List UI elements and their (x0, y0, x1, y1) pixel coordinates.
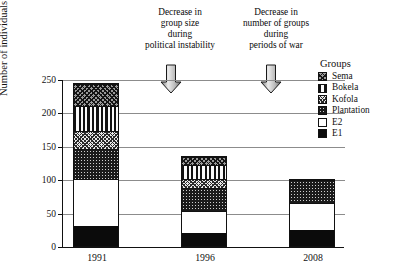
annotation-line: number of groups (213, 18, 339, 29)
y-tick-label: 150 (42, 142, 56, 152)
legend-item-sema[interactable]: Sema (318, 72, 404, 81)
gridline (63, 80, 345, 81)
legend-swatch-kofola (318, 95, 327, 104)
legend-label: Bokela (332, 83, 358, 92)
bar-segment-plantation (290, 180, 334, 203)
y-tick-label: 50 (47, 209, 57, 219)
bar-segment-sema (182, 157, 226, 166)
legend-swatch-sema (318, 72, 327, 81)
chart-figure: Decrease in group size during political … (0, 0, 405, 279)
annotation-line: during (213, 29, 339, 40)
y-tick (58, 247, 63, 248)
legend-item-e1[interactable]: E1 (318, 129, 404, 138)
legend-label: Sema (332, 72, 353, 81)
y-tick-label: 100 (42, 175, 56, 185)
y-tick (58, 214, 63, 215)
annotation-line: periods of war (213, 40, 339, 51)
legend-swatch-plantation (318, 106, 327, 115)
annotation-line: Decrease in (213, 7, 339, 18)
legend-label: Plantation (332, 106, 370, 115)
legend-label: Kofola (332, 95, 358, 104)
y-tick-label: 0 (51, 242, 56, 252)
bar-segment-plantation (74, 149, 118, 179)
bar-2008[interactable]: 2008 (289, 179, 335, 247)
bar-1996[interactable]: 1996 (181, 156, 227, 247)
legend-item-kofola[interactable]: Kofola (318, 95, 404, 104)
bar-segment-bokela (182, 165, 226, 179)
x-tick-label-1996: 1996 (182, 252, 228, 263)
bar-segment-bokela (74, 106, 118, 131)
legend-label: E1 (332, 129, 342, 138)
bar-segment-kofola (182, 179, 226, 188)
legend: Groups Sema Bokela Kofola Plantation E2 … (318, 58, 404, 140)
legend-label: E2 (332, 118, 342, 127)
legend-item-plantation[interactable]: Plantation (318, 106, 404, 115)
x-tick-label-1991: 1991 (74, 252, 120, 263)
bar-segment-e2 (290, 203, 334, 230)
legend-item-bokela[interactable]: Bokela (318, 83, 404, 92)
y-tick (58, 113, 63, 114)
y-tick-label: 250 (42, 75, 56, 85)
bar-segment-plantation (182, 188, 226, 211)
legend-swatch-bokela (318, 84, 327, 93)
bar-segment-e2 (182, 211, 226, 232)
bar-segment-kofola (74, 131, 118, 149)
plot-area: 250 200 150 100 50 0 1991 (62, 80, 344, 248)
legend-swatch-e1 (318, 129, 327, 138)
y-tick (58, 180, 63, 181)
y-tick (58, 147, 63, 148)
y-tick-label: 200 (42, 108, 56, 118)
y-tick (58, 80, 63, 81)
bar-segment-e1 (290, 230, 334, 246)
bar-segment-e1 (182, 233, 226, 246)
bar-segment-e1 (74, 226, 118, 246)
legend-title: Groups (320, 58, 404, 69)
x-tick-label-2008: 2008 (290, 252, 336, 263)
bar-segment-e2 (74, 179, 118, 226)
bar-segment-sema (74, 84, 118, 106)
legend-item-e2[interactable]: E2 (318, 118, 404, 127)
annotation-periods-of-war: Decrease in number of groups during peri… (213, 7, 339, 51)
legend-swatch-e2 (318, 118, 327, 127)
bar-1991[interactable]: 1991 (73, 83, 119, 247)
y-axis-title: Number of individuals (0, 1, 9, 96)
